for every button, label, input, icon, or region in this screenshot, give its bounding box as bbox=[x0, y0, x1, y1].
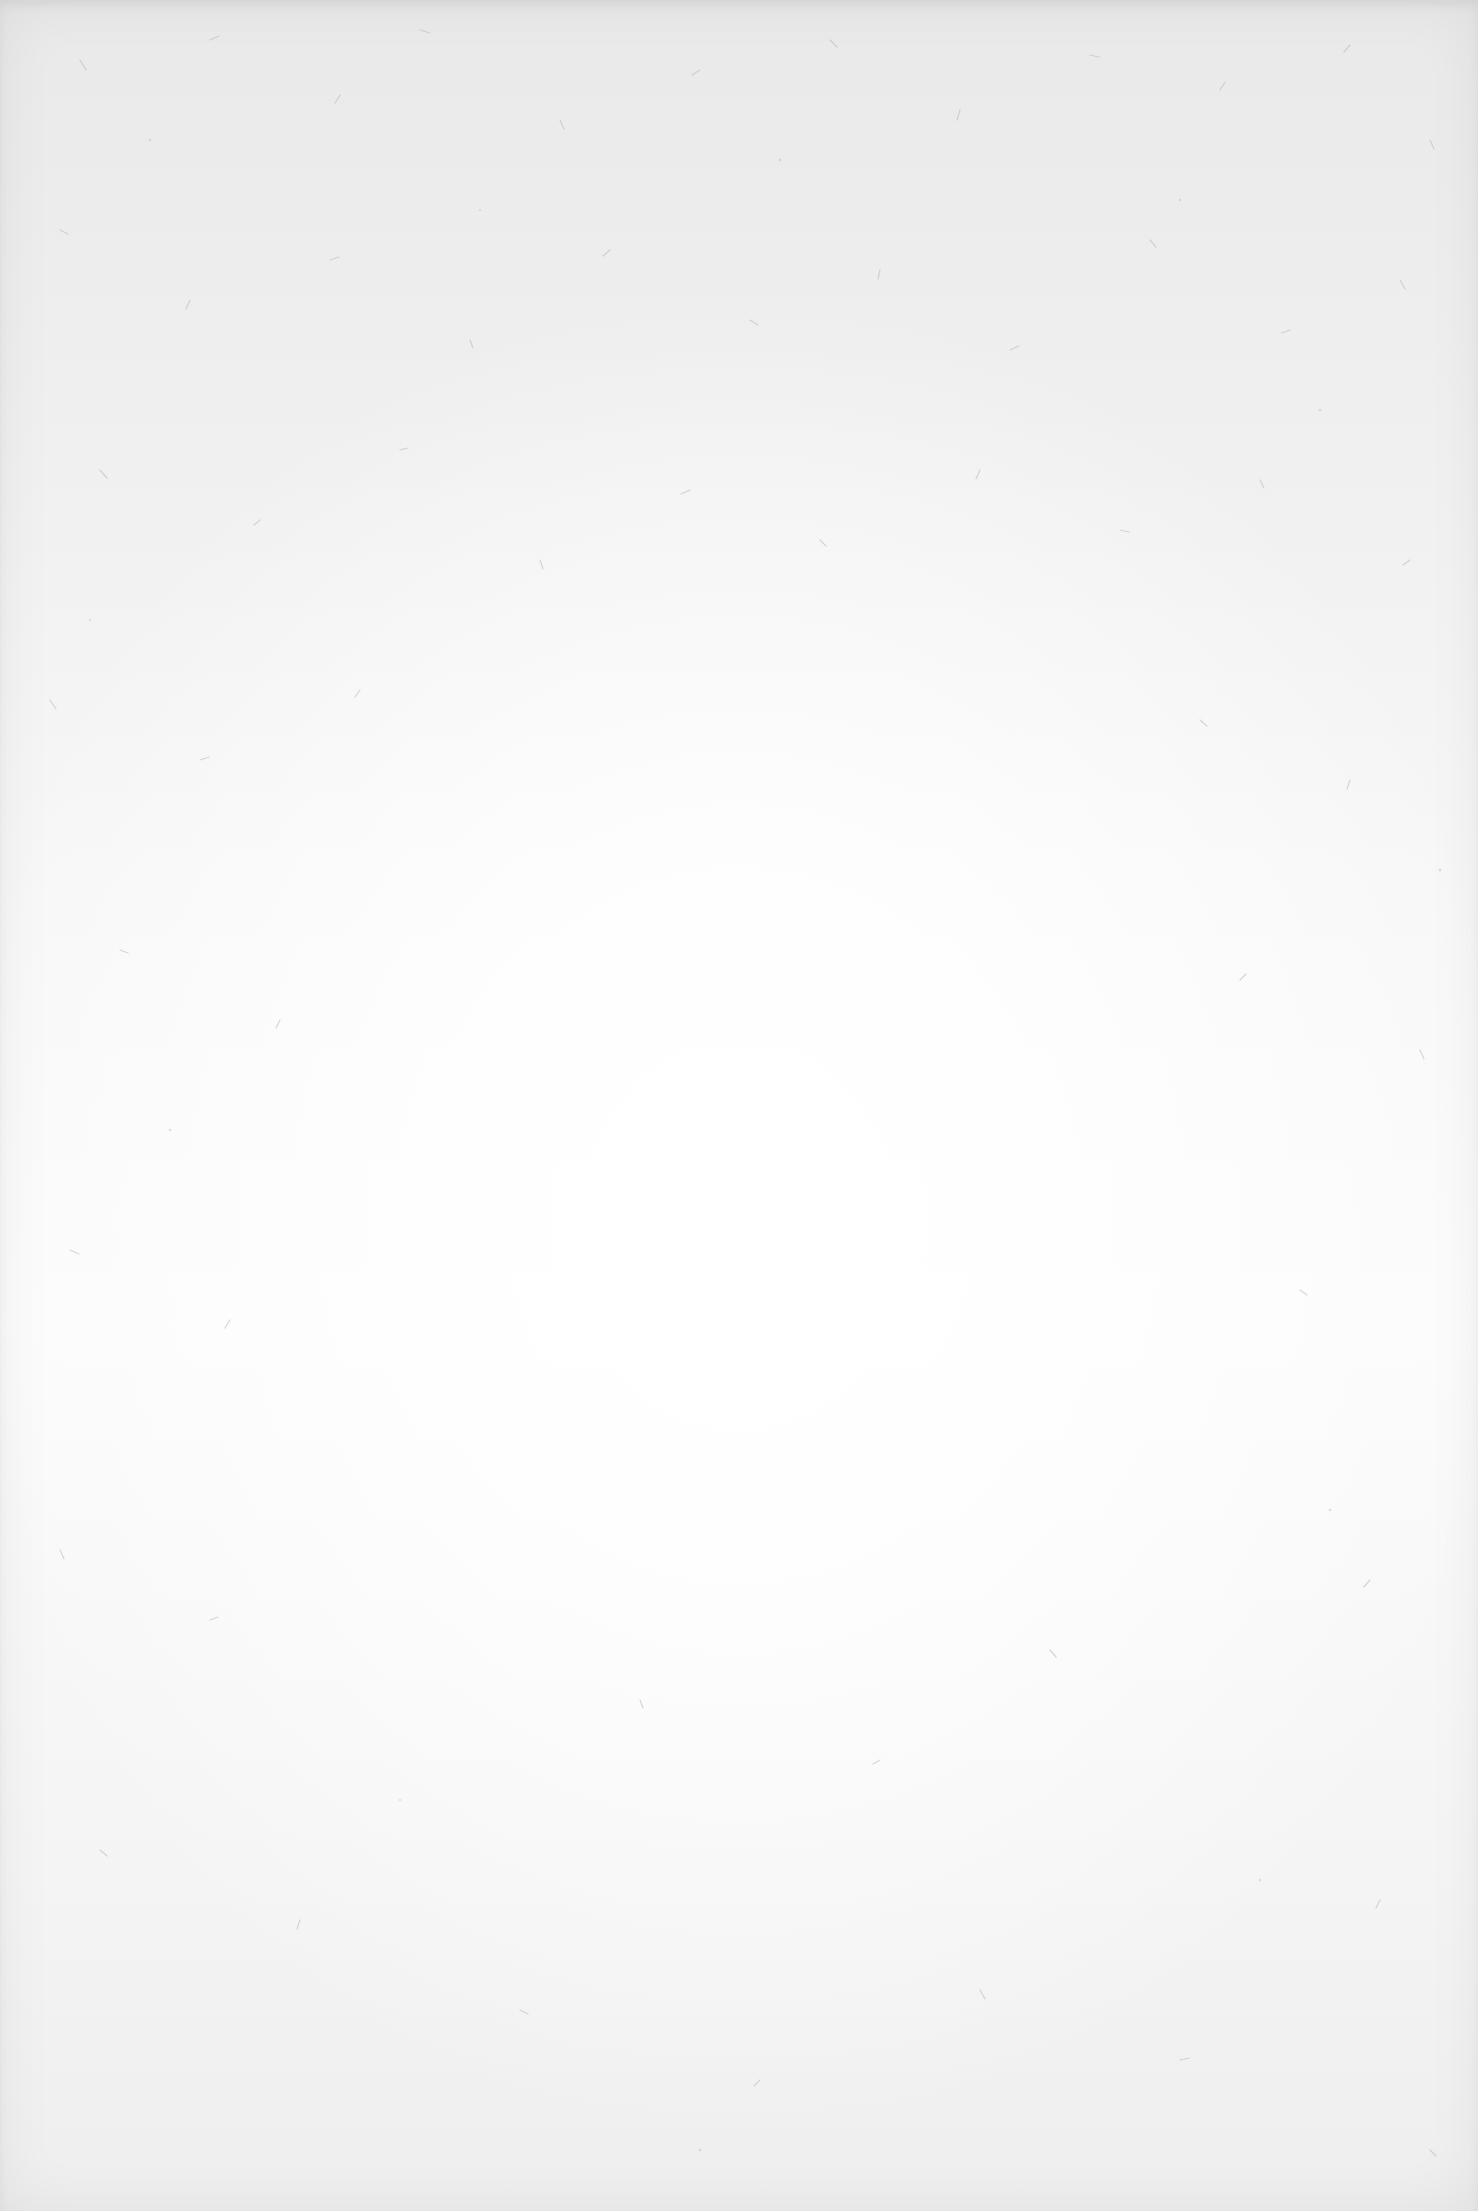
blank-paper-background bbox=[0, 0, 1478, 2211]
paper-fiber-texture bbox=[0, 0, 1478, 2211]
